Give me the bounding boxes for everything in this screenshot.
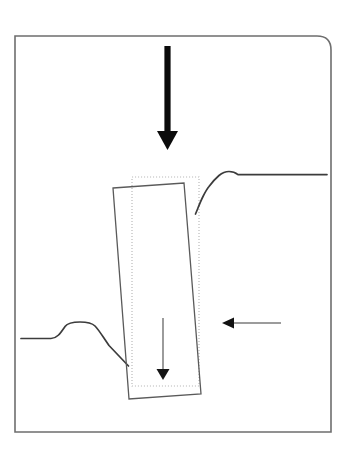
- penetration-arrow-head-icon: [157, 369, 170, 380]
- load-arrow: [157, 46, 178, 150]
- solid-indenter-block: [113, 183, 201, 399]
- penetration-arrow: [157, 318, 170, 380]
- reference-arrow: [222, 318, 281, 329]
- schematic-diagram: [0, 0, 340, 451]
- left-ground-profile: [21, 322, 129, 366]
- dotted-reference-box: [132, 177, 199, 386]
- panel-border: [15, 36, 331, 432]
- reference-arrow-head-icon: [222, 318, 234, 329]
- figure-caption: [14, 436, 326, 448]
- load-arrow-head-icon: [157, 131, 178, 150]
- right-ground-profile: [196, 172, 328, 215]
- figure-root: [0, 0, 340, 451]
